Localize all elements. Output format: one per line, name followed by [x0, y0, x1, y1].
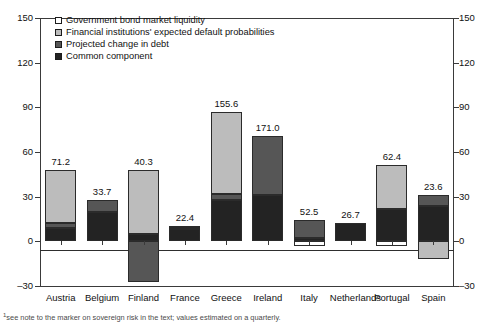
- bar-value-label: 40.3: [121, 157, 166, 167]
- bar-value-label: 71.2: [38, 157, 83, 167]
- bar-segment: [418, 206, 449, 242]
- bars-layer: 71.233.740.322.4155.6171.052.526.762.423…: [40, 18, 454, 286]
- bar-group-spain[interactable]: 23.6: [418, 18, 449, 286]
- y-tick-label-left: 120: [0, 58, 33, 68]
- bar-group-italy[interactable]: 52.5: [294, 18, 325, 286]
- x-tick: [226, 241, 227, 245]
- x-category-label-france: France: [164, 292, 205, 303]
- x-tick: [185, 241, 186, 245]
- y-tick-label-left: 0: [0, 236, 33, 246]
- bar-segment: [211, 112, 242, 194]
- x-category-label-portugal: Portugal: [371, 292, 412, 303]
- y-tick-label-right: 60: [459, 147, 470, 157]
- y-tick-label-right: –30: [459, 281, 475, 291]
- y-tick-label-left: 30: [0, 192, 33, 202]
- x-category-label-belgium: Belgium: [81, 292, 122, 303]
- y-tick-label-left: 60: [0, 147, 33, 157]
- x-tick: [144, 241, 145, 245]
- bar-group-belgium[interactable]: 33.7: [87, 18, 118, 286]
- bar-segment: [169, 226, 200, 228]
- bar-segment: [45, 223, 76, 227]
- bar-segment: [294, 220, 325, 238]
- bar-value-label: 22.4: [162, 213, 207, 223]
- axis-bottom-line: [40, 286, 454, 287]
- x-category-label-netherlands: Netherlands: [330, 292, 371, 303]
- bar-value-label: 33.7: [80, 187, 125, 197]
- x-category-label-greece: Greece: [206, 292, 247, 303]
- y-tick-label-right: 30: [459, 192, 470, 202]
- bar-segment: [45, 170, 76, 224]
- bar-group-portugal[interactable]: 62.4: [376, 18, 407, 286]
- x-category-label-italy: Italy: [288, 292, 329, 303]
- bar-segment: [87, 200, 118, 212]
- footnote-text: see note to the marker on sovereign risk…: [6, 313, 280, 322]
- bar-segment: [211, 200, 242, 242]
- bar-segment: [376, 209, 407, 242]
- x-tick: [351, 241, 352, 245]
- bar-segment: [211, 194, 242, 200]
- bar-segment: [128, 170, 159, 234]
- bar-group-finland[interactable]: 40.3: [128, 18, 159, 286]
- bar-value-label: 26.7: [328, 210, 373, 220]
- x-tick: [102, 241, 103, 245]
- bar-value-label: 52.5: [287, 207, 332, 217]
- footnote: 1see note to the marker on sovereign ris…: [3, 311, 495, 322]
- x-axis-category-labels: AustriaBelgiumFinlandFranceGreeceIreland…: [0, 292, 495, 306]
- x-category-label-spain: Spain: [413, 292, 454, 303]
- x-tick: [433, 241, 434, 245]
- bar-group-ireland[interactable]: 171.0: [252, 18, 283, 286]
- bar-segment: [335, 223, 366, 241]
- x-tick: [309, 241, 310, 245]
- bar-value-label: 155.6: [204, 99, 249, 109]
- y-tick-label-left: –30: [0, 281, 33, 291]
- bar-group-netherlands[interactable]: 26.7: [335, 18, 366, 286]
- x-tick: [61, 241, 62, 245]
- x-tick: [392, 241, 393, 245]
- bar-segment: [45, 228, 76, 241]
- y-tick-label-right: 0: [459, 236, 464, 246]
- x-category-label-ireland: Ireland: [247, 292, 288, 303]
- bar-value-label: 62.4: [369, 152, 414, 162]
- y-tick-label-left: 90: [0, 102, 33, 112]
- bar-group-greece[interactable]: 155.6: [211, 18, 242, 286]
- y-tick-label-right: 90: [459, 102, 470, 112]
- bar-value-label: 171.0: [245, 123, 290, 133]
- y-tick-label-left: 150: [0, 13, 33, 23]
- bar-segment: [169, 229, 200, 242]
- y-tick-label-right: 120: [459, 58, 475, 68]
- bar-segment: [128, 241, 159, 281]
- chart-container: –300306090120150 –300306090120150 Govern…: [0, 0, 495, 327]
- bar-segment: [252, 136, 283, 196]
- bar-segment: [418, 195, 449, 205]
- bar-segment: [252, 195, 283, 241]
- bar-segment: [376, 165, 407, 208]
- x-category-label-austria: Austria: [40, 292, 81, 303]
- bar-segment: [87, 212, 118, 241]
- x-category-label-finland: Finland: [123, 292, 164, 303]
- x-tick: [268, 241, 269, 245]
- y-tick-label-right: 150: [459, 13, 475, 23]
- bar-value-label: 23.6: [411, 182, 456, 192]
- bar-segment: [128, 234, 159, 241]
- bar-group-france[interactable]: 22.4: [169, 18, 200, 286]
- y-tick-left: [35, 286, 40, 287]
- bar-group-austria[interactable]: 71.2: [45, 18, 76, 286]
